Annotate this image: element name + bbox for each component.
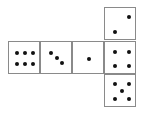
pip — [113, 82, 117, 86]
pip — [60, 61, 64, 65]
face-five — [104, 74, 136, 107]
pip — [15, 51, 19, 55]
pip — [15, 62, 19, 66]
pip — [127, 82, 131, 86]
pip — [113, 97, 117, 101]
pip — [113, 50, 117, 54]
pip — [49, 51, 53, 55]
face-two — [104, 7, 136, 40]
pip — [55, 56, 59, 60]
face-one — [72, 41, 104, 74]
pip — [127, 97, 131, 101]
pip — [127, 15, 131, 19]
pip — [120, 89, 124, 93]
pip — [113, 64, 117, 68]
pip — [127, 50, 131, 54]
face-three — [40, 41, 72, 74]
pip — [127, 64, 131, 68]
face-six — [8, 41, 40, 74]
pip — [31, 51, 35, 55]
pip — [113, 30, 117, 34]
pip — [23, 62, 27, 66]
pip — [31, 62, 35, 66]
pip — [87, 57, 91, 61]
pip — [23, 51, 27, 55]
face-four — [104, 41, 136, 74]
